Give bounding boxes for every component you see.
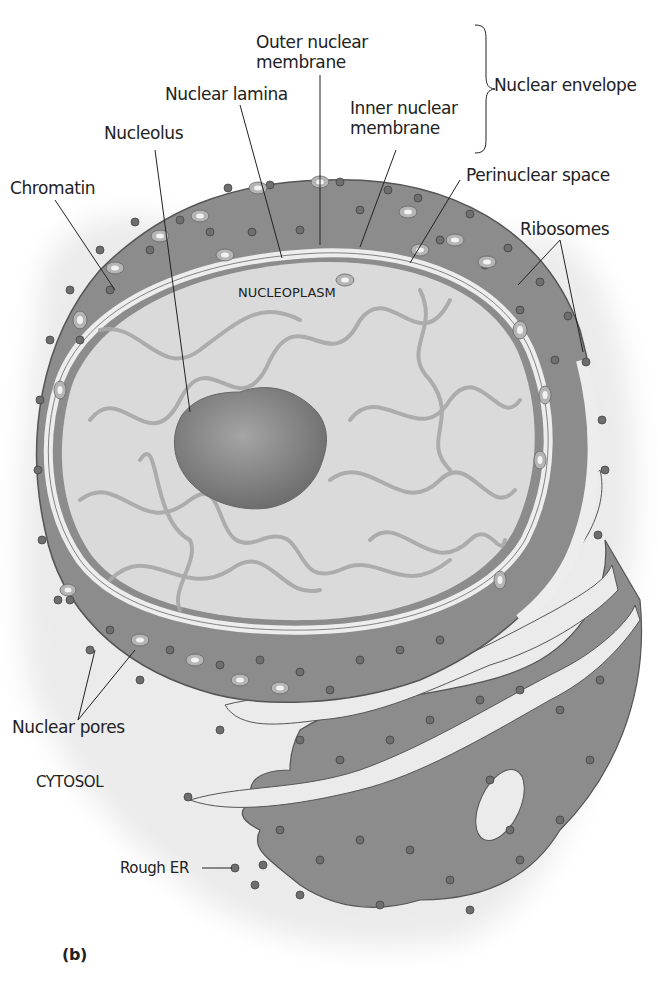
label-outer-nuclear-membrane-line1: Outer nuclear — [256, 32, 368, 53]
label-nuclear-envelope: Nuclear envelope — [494, 75, 637, 96]
label-inner-nuclear-membrane-line2: membrane — [350, 118, 440, 139]
label-rough-er: Rough ER — [120, 858, 189, 879]
label-nuclear-lamina: Nuclear lamina — [165, 84, 288, 105]
label-ribosomes: Ribosomes — [520, 219, 609, 240]
nucleus-illustration — [0, 0, 658, 981]
nucleus-diagram: Outer nuclear membrane Nuclear lamina In… — [0, 0, 658, 981]
label-perinuclear-space: Perinuclear space — [466, 165, 610, 186]
label-nucleoplasm: NUCLEOPLASM — [238, 282, 336, 303]
label-nuclear-pores: Nuclear pores — [12, 717, 125, 738]
label-inner-nuclear-membrane-line1: Inner nuclear — [350, 98, 458, 119]
label-nucleolus: Nucleolus — [104, 123, 183, 144]
label-cytosol: CYTOSOL — [36, 772, 103, 793]
label-outer-nuclear-membrane-line2: membrane — [256, 52, 346, 73]
label-chromatin: Chromatin — [10, 178, 95, 199]
panel-label: (b) — [62, 944, 87, 965]
